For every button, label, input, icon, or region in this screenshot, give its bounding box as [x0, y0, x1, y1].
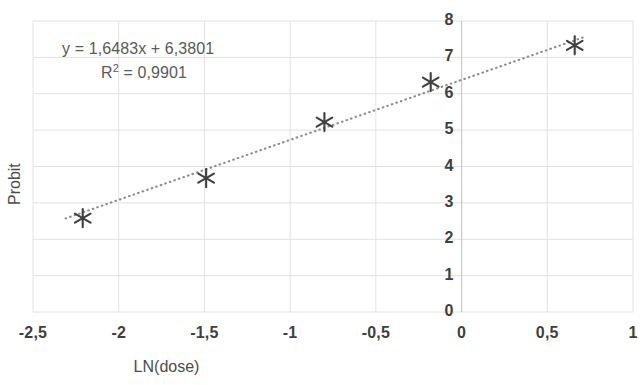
- y-axis-tick-label: 4: [424, 157, 454, 175]
- y-axis-tick-label: 5: [424, 120, 454, 138]
- x-axis-tick-label: -1,5: [174, 324, 234, 342]
- x-axis-tick-label: -0,5: [346, 324, 406, 342]
- y-axis-title: Probit: [6, 163, 24, 205]
- y-axis-tick-label: 8: [424, 11, 454, 29]
- y-axis-tick-label: 1: [424, 266, 454, 284]
- x-axis-tick-label: 0: [432, 324, 492, 342]
- x-axis-title: LN(dose): [0, 358, 333, 376]
- x-axis-tick-label: -2,5: [3, 324, 63, 342]
- y-axis-tick-label: 3: [424, 193, 454, 211]
- r-squared-value: = 0,9901: [119, 64, 187, 81]
- trendline-equation-label: y = 1,6483x + 6,3801: [62, 40, 214, 58]
- x-axis-tick-label: 0,5: [517, 324, 577, 342]
- x-axis-tick-label: -2: [89, 324, 149, 342]
- y-axis-tick-label: 0: [424, 302, 454, 320]
- x-axis-tick-label: 1: [603, 324, 642, 342]
- r-squared-prefix: R: [101, 64, 113, 81]
- y-axis-tick-label: 2: [424, 229, 454, 247]
- y-axis-tick-label: 7: [424, 47, 454, 65]
- r-squared-label: R2 = 0,9901: [101, 64, 187, 82]
- x-axis-tick-label: -1: [260, 324, 320, 342]
- y-axis-tick-label: 6: [424, 84, 454, 102]
